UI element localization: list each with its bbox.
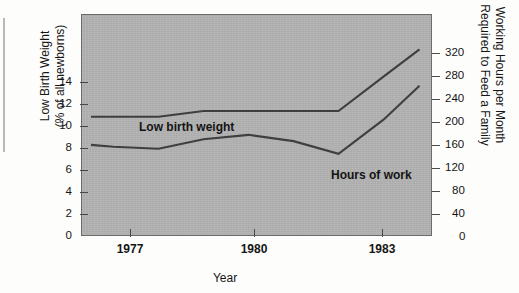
series-annotation-hours-of-work: Hours of work bbox=[331, 169, 412, 181]
x-tick-1983 bbox=[382, 229, 383, 237]
y-right-tick-200 bbox=[432, 122, 440, 123]
y-left-tick-14 bbox=[80, 82, 88, 83]
y-right-tick-240 bbox=[432, 99, 440, 100]
y-right-tick-160 bbox=[432, 145, 440, 146]
y-left-tick-2 bbox=[80, 214, 88, 215]
x-label-1980: 1980 bbox=[241, 243, 268, 255]
x-label-1983: 1983 bbox=[369, 243, 396, 255]
y-left-label-4: 4 bbox=[66, 186, 72, 198]
y-left-tick-10 bbox=[80, 126, 88, 127]
y-axis-right-title: Working Hours per Month Required to Feed… bbox=[477, 0, 507, 180]
x-tick-1977 bbox=[130, 229, 131, 237]
x-tick-1980 bbox=[254, 229, 255, 237]
y-left-tick-8 bbox=[80, 148, 88, 149]
y-right-label-40: 40 bbox=[445, 208, 475, 220]
plot-area: Low birth weight Hours of work bbox=[81, 14, 432, 236]
y-right-tick-40 bbox=[432, 214, 440, 215]
y-left-tick-4 bbox=[80, 192, 88, 193]
y-right-label-0: 0 bbox=[445, 231, 475, 243]
scan-artifact-rule bbox=[3, 18, 5, 152]
y-right-label-160: 160 bbox=[445, 139, 475, 151]
y-right-label-280: 280 bbox=[445, 70, 475, 82]
x-axis-title: Year bbox=[0, 271, 450, 285]
series-line-low-birth-weight bbox=[91, 49, 420, 116]
series-annotation-low-birth-weight: Low birth weight bbox=[139, 121, 234, 133]
y-right-label-80: 80 bbox=[445, 185, 475, 197]
y-right-tick-80 bbox=[432, 191, 440, 192]
y-left-label-0: 0 bbox=[66, 230, 72, 242]
y-left-label-2: 2 bbox=[66, 208, 72, 220]
y-left-tick-12 bbox=[80, 104, 88, 105]
y-right-tick-320 bbox=[432, 53, 440, 54]
y-right-label-200: 200 bbox=[445, 116, 475, 128]
y-right-label-320: 320 bbox=[445, 47, 475, 59]
series-canvas bbox=[82, 15, 433, 237]
y-left-tick-6 bbox=[80, 170, 88, 171]
x-label-1977: 1977 bbox=[117, 243, 144, 255]
y-right-tick-120 bbox=[432, 168, 440, 169]
y-right-label-120: 120 bbox=[445, 162, 475, 174]
y-right-tick-280 bbox=[432, 76, 440, 77]
y-axis-left-title: Low Birth Weight (% of all newborns) bbox=[38, 0, 68, 181]
y-right-label-240: 240 bbox=[445, 93, 475, 105]
